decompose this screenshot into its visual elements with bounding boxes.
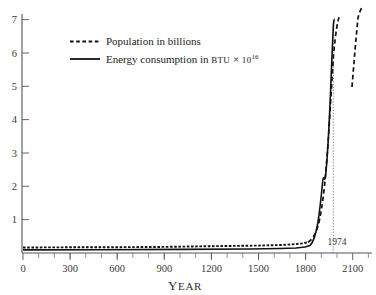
x-tick-label-1200: 1200 <box>201 263 222 274</box>
legend-label-energy: Energy consumption in BTU × 1016 <box>106 53 259 65</box>
series-population-flat <box>23 242 308 247</box>
x-axis-title: YEAR <box>168 278 202 293</box>
y-tick-label-5: 5 <box>12 81 17 92</box>
annotation-label-1974: 1974 <box>328 237 347 247</box>
x-axis-title-first: Y <box>168 278 178 293</box>
x-tick-label-2100: 2100 <box>342 263 363 274</box>
y-axis-ticks: 7 6 5 4 3 2 1 <box>12 14 29 225</box>
legend-energy-btu: BTU <box>211 55 230 65</box>
x-tick-label-900: 900 <box>156 263 172 274</box>
series-population-projection <box>352 7 362 87</box>
y-tick-label-7: 7 <box>12 14 17 25</box>
y-tick-label-2: 2 <box>12 181 17 192</box>
series-energy-rise <box>310 19 335 245</box>
legend-label-population: Population in billions <box>106 35 201 47</box>
x-tick-label-300: 300 <box>62 263 78 274</box>
legend-energy-pre: Energy consumption in <box>106 53 211 65</box>
x-axis-title-rest: EAR <box>178 280 202 292</box>
x-axis-minor-ticks <box>39 253 369 258</box>
y-tick-label-3: 3 <box>12 148 17 159</box>
y-tick-label-4: 4 <box>12 114 18 125</box>
x-tick-label-0: 0 <box>20 263 25 274</box>
x-axis-ticks: 0 300 600 900 1200 1500 1800 2100 <box>20 253 363 274</box>
growth-line-chart: 7 6 5 4 3 2 1 <box>0 0 376 295</box>
y-tick-label-1: 1 <box>12 214 17 225</box>
x-tick-label-1800: 1800 <box>295 263 316 274</box>
x-tick-label-600: 600 <box>109 263 125 274</box>
legend-energy-exponent: 16 <box>251 53 259 61</box>
chart-container: 7 6 5 4 3 2 1 <box>0 0 376 295</box>
x-tick-label-1500: 1500 <box>248 263 269 274</box>
legend-energy-base: 10 <box>242 55 252 65</box>
chart-legend: Population in billions Energy consumptio… <box>70 35 259 65</box>
annotation-1974: 1974 <box>328 20 347 253</box>
y-tick-label-6: 6 <box>12 48 17 59</box>
legend-energy-mid: × <box>230 53 242 65</box>
series-population-rise <box>308 15 340 243</box>
